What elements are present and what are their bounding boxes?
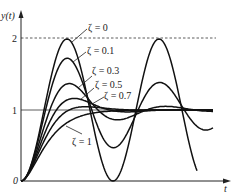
x-axis-label: t bbox=[224, 183, 227, 193]
tick-label-1: 1 bbox=[12, 105, 17, 116]
annotation-zeta-1: ζ = 1 bbox=[72, 136, 92, 148]
tick-label-0: 0 bbox=[13, 175, 18, 186]
step-response-chart: y(t) t 0 1 2 ζ = 0 ζ = 0.1 ζ = 0.3 ζ = 0… bbox=[0, 0, 233, 193]
y-axis-label: y(t) bbox=[0, 10, 16, 22]
annotation-zeta-0-3: ζ = 0.3 bbox=[92, 65, 119, 77]
leader-z0 bbox=[72, 29, 87, 42]
tick-label-2: 2 bbox=[12, 33, 17, 44]
annotation-zeta-0: ζ = 0 bbox=[88, 22, 108, 34]
annotation-zeta-0-7: ζ = 0.7 bbox=[104, 90, 131, 102]
leader-z1 bbox=[66, 126, 82, 134]
y-axis-arrow-icon bbox=[19, 10, 24, 18]
leader-z07 bbox=[92, 97, 104, 104]
leader-z01 bbox=[73, 52, 86, 62]
curves-group bbox=[21, 39, 213, 181]
annotation-zeta-0-1: ζ = 0.1 bbox=[87, 45, 114, 57]
